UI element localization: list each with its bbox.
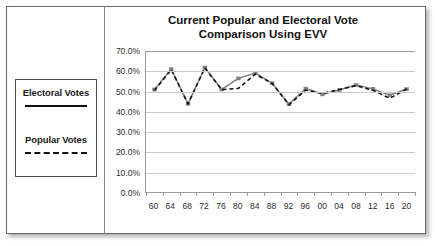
x-tickmark-64 — [163, 192, 164, 196]
x-axis-tick-68: 68 — [182, 201, 191, 211]
legend-entry-popular-votes: Popular Votes — [16, 134, 96, 154]
x-tickmark-96 — [297, 192, 298, 196]
x-axis-tick-12: 12 — [368, 201, 377, 211]
gridline-20 — [146, 152, 415, 153]
y-axis-tick-70: 70.0% — [116, 46, 140, 56]
chart-title: Current Popular and Electoral Vote Compa… — [105, 13, 421, 41]
x-axis-tick-88: 88 — [267, 201, 276, 211]
legend-entry-electoral-votes: Electoral Votes — [16, 87, 96, 107]
x-axis-tick-64: 64 — [166, 201, 175, 211]
x-tickmark-80 — [230, 192, 231, 196]
y-axis-tick-30: 30.0% — [116, 127, 140, 137]
x-tickmark-04 — [331, 192, 332, 196]
y-axis-tick-40: 40.0% — [116, 107, 140, 117]
series-line-popular-votes — [154, 68, 406, 105]
y-axis-tick-labels: 0.0%10.0%20.0%30.0%40.0%50.0%60.0%70.0% — [105, 51, 143, 193]
x-tickmark-88 — [264, 192, 265, 196]
plot-wrapper: 0.0%10.0%20.0%30.0%40.0%50.0%60.0%70.0% … — [105, 51, 423, 233]
gridline-40 — [146, 112, 415, 113]
x-axis-tick-04: 04 — [334, 201, 343, 211]
chart-panel: Current Popular and Electoral Vote Compa… — [105, 7, 425, 233]
x-axis-tick-20: 20 — [402, 201, 411, 211]
x-tickmark-84 — [247, 192, 248, 196]
x-tickmark-72 — [196, 192, 197, 196]
legend-panel: Electoral Votes Popular Votes — [7, 7, 105, 233]
legend-label-electoral-votes: Electoral Votes — [16, 87, 96, 98]
x-tickmark-08 — [348, 192, 349, 196]
legend-swatch-solid-line — [25, 105, 87, 107]
gridline-30 — [146, 132, 415, 133]
x-tickmark-end — [415, 192, 416, 196]
x-axis-tick-92: 92 — [284, 201, 293, 211]
x-axis-tick-00: 00 — [317, 201, 326, 211]
gridline-10 — [146, 173, 415, 174]
y-axis-tick-0: 0.0% — [121, 188, 140, 198]
x-axis-tick-08: 08 — [351, 201, 360, 211]
x-axis-tick-72: 72 — [199, 201, 208, 211]
x-tickmark-60 — [146, 192, 147, 196]
x-tickmark-12 — [365, 192, 366, 196]
x-tickmark-68 — [180, 192, 181, 196]
y-axis-tick-60: 60.0% — [116, 66, 140, 76]
gridline-50 — [146, 92, 415, 93]
x-tickmark-00 — [314, 192, 315, 196]
x-tickmark-20 — [398, 192, 399, 196]
y-axis-tick-50: 50.0% — [116, 87, 140, 97]
legend-box: Electoral Votes Popular Votes — [15, 79, 97, 177]
y-axis-tick-20: 20.0% — [116, 147, 140, 157]
x-axis-tick-96: 96 — [301, 201, 310, 211]
gridline-70 — [146, 51, 415, 52]
x-axis-tick-labels: 60646872768084889296000408121620 — [145, 201, 415, 217]
x-tickmark-92 — [281, 192, 282, 196]
slide-frame: Electoral Votes Popular Votes Current Po… — [6, 6, 426, 234]
x-axis-tick-60: 60 — [149, 201, 158, 211]
x-axis-tick-16: 16 — [385, 201, 394, 211]
x-tickmark-16 — [381, 192, 382, 196]
x-axis-tick-84: 84 — [250, 201, 259, 211]
data-point-marker — [236, 77, 240, 81]
x-axis-tick-76: 76 — [216, 201, 225, 211]
series-line-electoral-votes — [154, 68, 406, 104]
x-axis-tick-80: 80 — [233, 201, 242, 211]
legend-swatch-dashed-line — [25, 152, 87, 154]
plot-area — [145, 51, 415, 193]
y-axis-tick-10: 10.0% — [116, 168, 140, 178]
legend-label-popular-votes: Popular Votes — [16, 134, 96, 145]
gridline-60 — [146, 71, 415, 72]
x-tickmark-76 — [213, 192, 214, 196]
